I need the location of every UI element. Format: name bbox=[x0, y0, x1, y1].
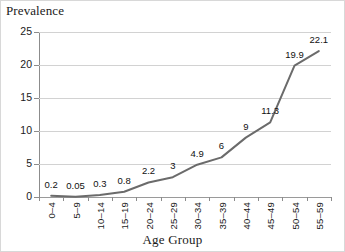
gridline-25 bbox=[39, 32, 331, 33]
x-tick-mark bbox=[136, 197, 137, 201]
x-tick-label: 45–49 bbox=[265, 202, 276, 229]
gridline-10 bbox=[39, 131, 331, 132]
x-tick-mark bbox=[234, 197, 235, 201]
x-tick-label: 35–39 bbox=[217, 202, 228, 229]
x-tick-mark bbox=[185, 197, 186, 201]
data-label: 3 bbox=[170, 160, 175, 171]
data-label: 0.3 bbox=[93, 178, 106, 189]
x-tick-mark bbox=[331, 197, 332, 201]
y-tick-label: 15 bbox=[6, 91, 32, 103]
x-tick-mark bbox=[112, 197, 113, 201]
y-tick-mark-10 bbox=[34, 131, 39, 132]
y-tick-label: 25 bbox=[6, 25, 32, 37]
x-tick-label: 5–9 bbox=[71, 202, 82, 218]
y-tick-label: 20 bbox=[6, 58, 32, 70]
x-tick-label: 40–44 bbox=[241, 202, 252, 229]
y-axis-tick-labels: 0510152025 bbox=[1, 1, 32, 252]
x-tick-mark bbox=[258, 197, 259, 201]
data-label: 19.9 bbox=[285, 49, 304, 60]
y-tick-mark-5 bbox=[34, 164, 39, 165]
x-tick-mark bbox=[282, 197, 283, 201]
x-tick-mark bbox=[63, 197, 64, 201]
x-tick-label: 20–24 bbox=[144, 202, 155, 229]
x-tick-mark bbox=[209, 197, 210, 201]
data-label: 4.9 bbox=[191, 148, 204, 159]
x-tick-mark bbox=[161, 197, 162, 201]
x-tick-label: 25–29 bbox=[168, 202, 179, 229]
y-tick-label: 10 bbox=[6, 124, 32, 136]
data-label: 11.3 bbox=[261, 105, 279, 116]
gridline-15 bbox=[39, 98, 331, 99]
x-tick-label: 50–54 bbox=[290, 202, 301, 229]
x-tick-mark bbox=[88, 197, 89, 201]
data-label: 0.2 bbox=[45, 179, 58, 190]
x-axis-title: Age Group bbox=[1, 232, 344, 248]
y-tick-label: 0 bbox=[6, 190, 32, 202]
y-tick-mark-15 bbox=[34, 98, 39, 99]
x-tick-label: 0–4 bbox=[46, 202, 57, 218]
x-tick-label: 15–19 bbox=[119, 202, 130, 229]
data-label: 0.8 bbox=[118, 175, 131, 186]
prevalence-line-chart: Prevalence 0510152025 Age Group 0–45–910… bbox=[0, 0, 345, 252]
x-tick-mark bbox=[307, 197, 308, 201]
data-label: 2.2 bbox=[142, 165, 155, 176]
gridline-20 bbox=[39, 65, 331, 66]
data-label: 9 bbox=[243, 121, 248, 132]
y-tick-label: 5 bbox=[6, 157, 32, 169]
y-tick-mark-25 bbox=[34, 32, 39, 33]
x-tick-label: 55–59 bbox=[314, 202, 325, 229]
x-tick-mark bbox=[39, 197, 40, 201]
data-label: 6 bbox=[219, 140, 224, 151]
data-label: 0.05 bbox=[66, 180, 85, 191]
y-tick-mark-20 bbox=[34, 65, 39, 66]
x-tick-label: 10–14 bbox=[95, 202, 106, 229]
gridline-5 bbox=[39, 164, 331, 165]
data-label: 22.1 bbox=[310, 34, 329, 45]
x-tick-label: 30–34 bbox=[192, 202, 203, 229]
